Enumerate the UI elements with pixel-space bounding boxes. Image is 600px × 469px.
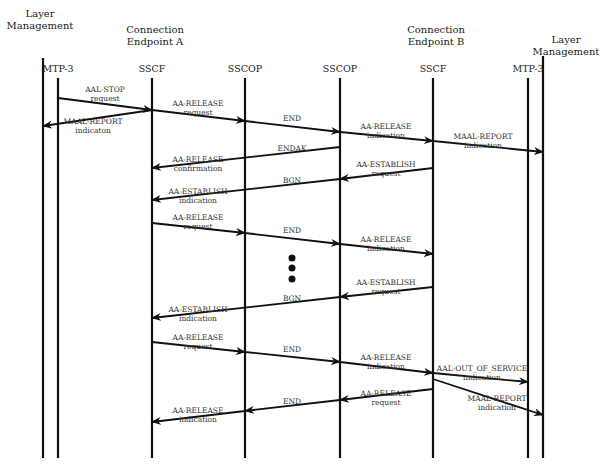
- message-label-line1: MAAL-REPORT: [64, 117, 123, 126]
- message-label-line1: END: [283, 345, 301, 354]
- message-label: AA-ESTABLISHrequest: [356, 160, 415, 178]
- message-label: ENDAK: [277, 144, 306, 153]
- message-label-line2: indication: [168, 196, 227, 205]
- message-label-line2: indication: [468, 403, 527, 412]
- message-label: BGN: [283, 294, 301, 303]
- group-header-line1: Connection: [407, 24, 465, 36]
- message-label: AA-RELEASEindication: [173, 406, 224, 424]
- message-label-line1: AA-ESTABLISH: [356, 160, 415, 169]
- message-label: AA-RELEASErequest: [173, 213, 224, 231]
- message-label-line1: AA-RELEASE: [173, 155, 224, 164]
- message-label-line2: indication: [361, 244, 412, 253]
- group-header-line2: Endpoint A: [126, 36, 184, 48]
- message-label-line1: AA-RELEASE: [361, 235, 412, 244]
- message-label-line2: indication: [437, 373, 527, 382]
- message-label-line1: AA-RELEASE: [173, 333, 224, 342]
- message-label-line1: AA-RELEASE: [361, 353, 412, 362]
- message-label: AA-ESTABLISHindication: [168, 187, 227, 205]
- message-label: AA-RELEASEindication: [361, 353, 412, 371]
- message-label-line1: AA-RELEASE: [173, 406, 224, 415]
- group-header-cep_a: ConnectionEndpoint A: [126, 24, 184, 48]
- ellipsis-dots: [289, 255, 296, 283]
- lifeline-label-mtp3_a: MTP-3: [42, 63, 73, 75]
- message-label-line1: AAL-STOP: [85, 85, 125, 94]
- message-label: AAL-OUT_OF_SERVICEindication: [437, 364, 527, 382]
- message-label: AA-RELEASEconfirmation: [173, 155, 224, 173]
- message-label: AA-RELEASErequest: [361, 389, 412, 407]
- message-label-line2: request: [85, 94, 125, 103]
- message-label-line1: END: [283, 226, 301, 235]
- message-label-line2: request: [356, 169, 415, 178]
- group-header-line1: Connection: [126, 24, 184, 36]
- message-label-line2: confirmation: [173, 164, 224, 173]
- message-label: AA-RELEASErequest: [173, 333, 224, 351]
- message-label-line1: MAAL-REPORT: [468, 394, 527, 403]
- message-label-line1: BGN: [283, 176, 301, 185]
- message-label-line1: AAL-OUT_OF_SERVICE: [437, 364, 527, 373]
- group-header-lm_a: LayerManagement: [7, 8, 74, 32]
- lifeline-label-sscf_a: SSCF: [139, 63, 166, 75]
- message-label: END: [283, 114, 301, 123]
- lifeline-label-mtp3_b: MTP-3: [512, 63, 543, 75]
- message-label-line2: indication: [173, 415, 224, 424]
- group-header-line2: Management: [7, 20, 74, 32]
- message-label-line1: AA-ESTABLISH: [168, 305, 227, 314]
- message-label: AA-RELEASErequest: [173, 99, 224, 117]
- message-label: MAAL-REPORTindicaton: [64, 117, 123, 135]
- message-label-line1: AA-RELEASE: [361, 122, 412, 131]
- message-label-line1: AA-RELEASE: [173, 99, 224, 108]
- group-header-line2: Endpoint B: [407, 36, 465, 48]
- group-header-line1: Layer: [7, 8, 74, 20]
- group-header-cep_b: ConnectionEndpoint B: [407, 24, 465, 48]
- message-label-line2: indication: [168, 314, 227, 323]
- group-header-line2: Management: [533, 46, 600, 58]
- ellipsis-dot: [289, 276, 296, 283]
- message-label-line1: END: [283, 397, 301, 406]
- message-label: END: [283, 345, 301, 354]
- message-label-line2: indication: [361, 131, 412, 140]
- ellipsis-dot: [289, 265, 296, 272]
- message-label-line2: request: [173, 108, 224, 117]
- group-header-lm_b: LayerManagement: [533, 34, 600, 58]
- message-label-line2: request: [361, 398, 412, 407]
- message-label: AA-RELEASEindication: [361, 235, 412, 253]
- message-label-line1: MAAL-REPORT: [454, 132, 513, 141]
- message-label-line2: request: [173, 222, 224, 231]
- message-label-line2: request: [356, 287, 415, 296]
- message-label: BGN: [283, 176, 301, 185]
- message-label: MAAL-REPORTindication: [468, 394, 527, 412]
- message-label-line1: AA-ESTABLISH: [168, 187, 227, 196]
- message-label-line1: BGN: [283, 294, 301, 303]
- ellipsis-dot: [289, 255, 296, 262]
- message-label: END: [283, 226, 301, 235]
- message-label-line2: indication: [361, 362, 412, 371]
- group-header-line1: Layer: [533, 34, 600, 46]
- message-label-line1: AA-RELEASE: [361, 389, 412, 398]
- message-label-line1: AA-RELEASE: [173, 213, 224, 222]
- message-label: AAL-STOPrequest: [85, 85, 125, 103]
- message-label: AA-RELEASEindication: [361, 122, 412, 140]
- message-label-line1: END: [283, 114, 301, 123]
- message-label-line2: request: [173, 342, 224, 351]
- message-label-line1: AA-ESTABLISH: [356, 278, 415, 287]
- message-label-line1: ENDAK: [277, 144, 306, 153]
- lifeline-label-sscf_b: SSCF: [420, 63, 447, 75]
- message-label-line2: indication: [454, 141, 513, 150]
- message-label: MAAL-REPORTindication: [454, 132, 513, 150]
- message-label-line2: indicaton: [64, 126, 123, 135]
- lifeline-label-sscop_a: SSCOP: [228, 63, 262, 75]
- message-label: AA-ESTABLISHindication: [168, 305, 227, 323]
- message-label: AA-ESTABLISHrequest: [356, 278, 415, 296]
- message-label: END: [283, 397, 301, 406]
- lifeline-label-sscop_b: SSCOP: [323, 63, 357, 75]
